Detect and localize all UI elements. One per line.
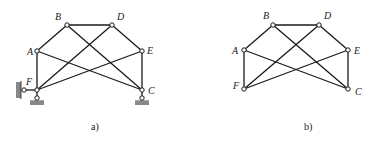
member-b-AB xyxy=(244,25,273,50)
joints-a xyxy=(35,23,144,92)
joint-a-A xyxy=(35,49,39,53)
joint-b-E xyxy=(346,48,350,52)
label-b-F: F xyxy=(232,80,240,91)
member-a-BC xyxy=(67,25,142,90)
label-b-C: C xyxy=(355,86,362,97)
joint-b-A xyxy=(242,48,246,52)
joint-a-E xyxy=(140,49,144,53)
joint-a-B xyxy=(65,23,69,27)
label-b-E: E xyxy=(353,45,360,56)
joint-b-C xyxy=(346,87,350,91)
member-a-AB xyxy=(37,25,67,51)
joint-b-B xyxy=(271,23,275,27)
member-b-DE xyxy=(319,25,348,50)
figure-a: B D A E F C a) xyxy=(16,11,155,133)
label-a-B: B xyxy=(55,11,61,22)
ground-hatch-icon xyxy=(135,101,149,105)
members-a xyxy=(37,25,142,90)
label-a-A: A xyxy=(26,46,34,57)
joint-a-D xyxy=(110,23,114,27)
label-a-E: E xyxy=(146,45,153,56)
member-b-DF xyxy=(244,25,319,89)
label-a-F: F xyxy=(25,76,33,87)
figure-b: B D A E F C b) xyxy=(231,10,362,133)
wall-hatch-icon xyxy=(16,82,21,98)
joint-a-C xyxy=(140,88,144,92)
label-a-C: C xyxy=(148,85,155,96)
member-b-BC xyxy=(273,25,348,89)
joints-b xyxy=(242,23,350,91)
ground-hatch-icon xyxy=(30,101,44,105)
member-a-DE xyxy=(112,25,142,51)
joint-b-F xyxy=(242,87,246,91)
label-a-D: D xyxy=(116,11,125,22)
members-b xyxy=(244,25,348,89)
label-b-A: A xyxy=(231,45,239,56)
joint-b-D xyxy=(317,23,321,27)
joint-a-F xyxy=(35,88,39,92)
label-b-D: D xyxy=(323,10,332,21)
member-a-DF xyxy=(37,25,112,90)
label-b-B: B xyxy=(263,10,269,21)
truss-diagrams: B D A E F C a) xyxy=(0,0,375,143)
caption-a: a) xyxy=(91,121,99,133)
caption-b: b) xyxy=(304,121,312,133)
